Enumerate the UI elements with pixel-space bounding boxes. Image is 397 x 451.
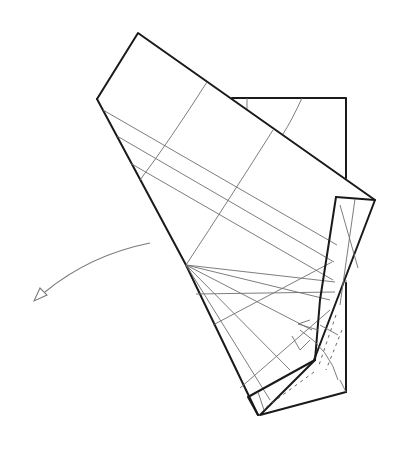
flap-creases <box>103 82 337 400</box>
origami-diagram <box>0 0 397 451</box>
bottom-fold <box>248 315 346 415</box>
fold-arrow-head-icon <box>34 288 47 301</box>
back-rectangle <box>232 98 346 178</box>
right-strip <box>314 197 375 392</box>
fold-arrow <box>34 243 150 301</box>
fold-arrow-curve <box>45 243 150 292</box>
